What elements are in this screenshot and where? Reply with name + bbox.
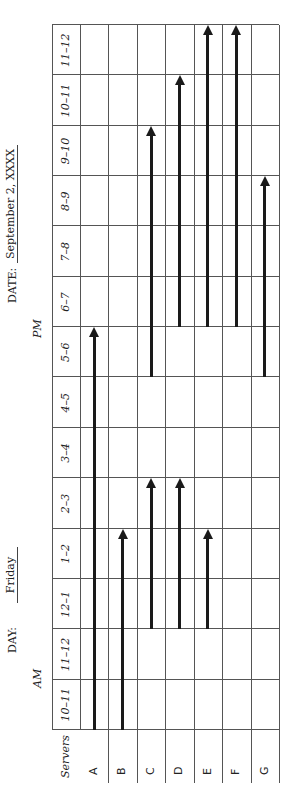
time-slot-header: 6–7 [59,277,72,327]
server-label: D [172,730,185,783]
time-slot-header: 5–6 [59,327,72,377]
grid-divider [165,25,166,783]
date-label: DATE: [6,268,19,303]
arrow-head-icon [231,25,241,35]
schedule-grid: Servers 10–1111–1212–11–22–33–44–55–66–7… [52,25,279,783]
grid-divider [108,25,109,783]
grid-divider [251,25,252,783]
day-label: DAY: [6,627,19,653]
arrow-head-icon [146,478,156,488]
time-slot-header: 11–12 [59,25,72,75]
arrow-head-icon [175,478,185,488]
time-slot-header: 1–2 [59,529,72,579]
time-slot-header: 3–4 [59,428,72,478]
grid-divider [222,25,223,783]
shift-arrow [150,134,153,378]
rotated-schedule-sheet: DAY: Friday DATE: September 2, XXXX AM P… [0,0,289,803]
time-slot-header: 9–10 [59,126,72,176]
shift-arrow [263,184,266,377]
arrow-head-icon [203,529,213,539]
time-slot-header: 2–3 [59,478,72,528]
date-value: September 2, XXXX [4,145,18,263]
arrow-head-icon [203,25,213,35]
arrow-head-icon [89,327,99,337]
grid-divider [52,25,53,730]
arrow-head-icon [146,126,156,136]
time-slot-header: 8–9 [59,176,72,226]
time-slot-header: 10–11 [59,75,72,125]
server-label: B [115,730,128,783]
server-label: C [144,730,157,783]
shift-arrow [93,335,96,730]
time-slot-header: 7–8 [59,226,72,276]
grid-divider [194,25,195,783]
pm-label: PM [31,319,44,338]
grid-divider [279,25,280,783]
day-value: Friday [4,547,18,603]
arrow-head-icon [260,176,270,186]
server-label: A [87,730,100,783]
server-label: E [201,730,214,783]
time-slot-header: 4–5 [59,378,72,428]
time-slot-header: 11–12 [59,629,72,679]
server-label: G [258,730,271,783]
time-slot-header: 12–1 [59,579,72,629]
shift-arrow [235,33,238,327]
time-slot-header: 10–11 [59,680,72,730]
shift-arrow [121,537,124,730]
shift-arrow [150,486,153,629]
shift-arrow [206,537,209,630]
am-label: AM [31,669,44,688]
shift-arrow [178,486,181,629]
shift-arrow [206,33,209,327]
arrow-head-icon [118,529,128,539]
arrow-head-icon [175,75,185,85]
server-label: F [229,730,242,783]
servers-header: Servers [59,730,72,783]
grid-divider [137,25,138,783]
shift-arrow [178,83,181,327]
grid-divider [80,25,81,730]
